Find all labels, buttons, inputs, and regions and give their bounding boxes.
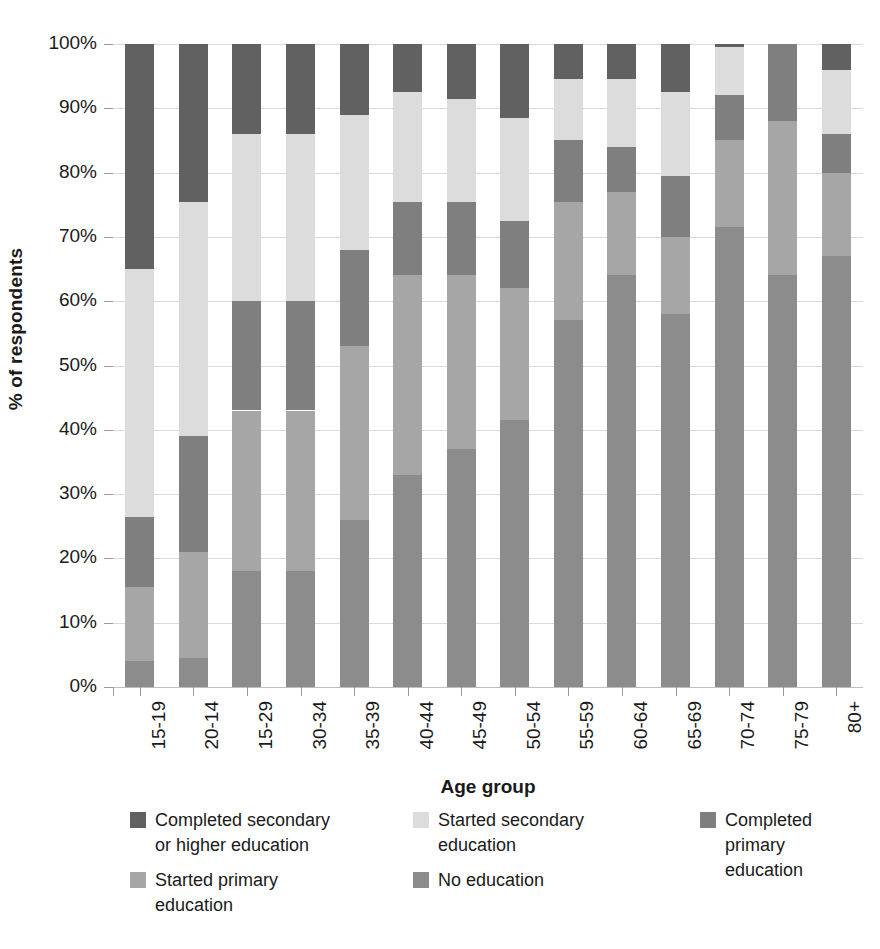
bar-segment[interactable] — [554, 202, 583, 321]
bar-segment[interactable] — [607, 147, 636, 192]
bar-segment[interactable] — [500, 288, 529, 420]
bar-segment[interactable] — [232, 134, 261, 301]
bar-column[interactable] — [607, 44, 636, 687]
bar-segment[interactable] — [179, 202, 208, 437]
bar-column[interactable] — [232, 44, 261, 687]
x-axis-tick-label: 45-49 — [469, 701, 491, 750]
bar-segment[interactable] — [500, 420, 529, 687]
bar-segment[interactable] — [822, 256, 851, 687]
bar-segment[interactable] — [232, 411, 261, 572]
x-axis-tick-label: 75-79 — [791, 701, 813, 750]
bar-stack — [715, 44, 744, 687]
legend-item[interactable]: Started secondaryeducation — [413, 808, 584, 858]
bar-column[interactable] — [179, 44, 208, 687]
bar-segment[interactable] — [715, 95, 744, 140]
bar-column[interactable] — [500, 44, 529, 687]
bar-segment[interactable] — [554, 320, 583, 687]
bar-segment[interactable] — [554, 44, 583, 79]
bar-segment[interactable] — [447, 44, 476, 99]
bar-segment[interactable] — [822, 44, 851, 70]
bar-column[interactable] — [447, 44, 476, 687]
bar-segment[interactable] — [661, 44, 690, 92]
bar-segment[interactable] — [232, 301, 261, 410]
bar-segment[interactable] — [393, 44, 422, 92]
stacked-bar-chart: % of respondents 0%10%20%30%40%50%60%70%… — [0, 0, 880, 949]
bar-segment[interactable] — [768, 121, 797, 275]
bar-segment[interactable] — [125, 269, 154, 517]
bar-segment[interactable] — [822, 173, 851, 257]
bar-segment[interactable] — [822, 70, 851, 134]
x-axis-tick-mark — [622, 687, 623, 696]
bar-segment[interactable] — [286, 44, 315, 134]
bar-segment[interactable] — [286, 571, 315, 687]
bar-segment[interactable] — [607, 44, 636, 79]
bar-segment[interactable] — [125, 44, 154, 269]
bar-column[interactable] — [768, 44, 797, 687]
bar-column[interactable] — [286, 44, 315, 687]
bar-segment[interactable] — [554, 140, 583, 201]
bar-segment[interactable] — [393, 92, 422, 201]
legend-item[interactable]: No education — [413, 868, 544, 893]
bar-segment[interactable] — [340, 44, 369, 115]
bar-segment[interactable] — [447, 449, 476, 687]
bar-segment[interactable] — [715, 140, 744, 227]
bar-segment[interactable] — [286, 411, 315, 572]
bar-segment[interactable] — [125, 517, 154, 588]
bar-segment[interactable] — [179, 658, 208, 687]
y-axis-tick-mark — [104, 173, 113, 174]
bar-segment[interactable] — [607, 79, 636, 147]
bar-segment[interactable] — [715, 44, 744, 47]
bar-segment[interactable] — [393, 475, 422, 687]
bar-segment[interactable] — [661, 237, 690, 314]
bar-column[interactable] — [715, 44, 744, 687]
y-axis-tick-label: 70% — [59, 225, 97, 247]
bar-segment[interactable] — [393, 202, 422, 276]
bar-stack — [393, 44, 422, 687]
bar-segment[interactable] — [447, 99, 476, 202]
bar-segment[interactable] — [179, 552, 208, 658]
y-axis-tick-label: 40% — [59, 418, 97, 440]
legend-label: No education — [438, 868, 544, 893]
bar-segment[interactable] — [768, 44, 797, 121]
bar-column[interactable] — [125, 44, 154, 687]
bar-segment[interactable] — [179, 436, 208, 552]
bar-segment[interactable] — [768, 275, 797, 687]
bar-segment[interactable] — [232, 44, 261, 134]
bar-segment[interactable] — [447, 202, 476, 276]
bar-segment[interactable] — [500, 221, 529, 289]
bar-segment[interactable] — [179, 44, 208, 202]
bar-column[interactable] — [661, 44, 690, 687]
bar-segment[interactable] — [661, 314, 690, 687]
bar-segment[interactable] — [340, 346, 369, 520]
bar-column[interactable] — [554, 44, 583, 687]
bar-segment[interactable] — [125, 661, 154, 687]
bar-stack — [500, 44, 529, 687]
legend-item[interactable]: Started primaryeducation — [130, 868, 278, 918]
legend-label-line2: education — [155, 893, 278, 918]
bar-segment[interactable] — [340, 250, 369, 346]
bar-segment[interactable] — [661, 176, 690, 237]
bar-segment[interactable] — [125, 587, 154, 661]
bar-segment[interactable] — [447, 275, 476, 449]
bar-segment[interactable] — [607, 275, 636, 687]
bar-segment[interactable] — [715, 47, 744, 95]
bar-column[interactable] — [393, 44, 422, 687]
bar-column[interactable] — [340, 44, 369, 687]
x-axis-tick-label: 20-14 — [201, 701, 223, 750]
bar-column[interactable] — [822, 44, 851, 687]
x-axis-tick-mark — [354, 687, 355, 696]
bar-segment[interactable] — [500, 118, 529, 221]
bar-segment[interactable] — [232, 571, 261, 687]
bar-segment[interactable] — [340, 115, 369, 250]
bar-segment[interactable] — [393, 275, 422, 474]
bar-segment[interactable] — [500, 44, 529, 118]
legend-item[interactable]: Completed secondaryor higher education — [130, 808, 330, 858]
bar-segment[interactable] — [286, 134, 315, 301]
bar-segment[interactable] — [607, 192, 636, 276]
bar-segment[interactable] — [661, 92, 690, 176]
bar-segment[interactable] — [822, 134, 851, 173]
bar-segment[interactable] — [715, 227, 744, 687]
bar-segment[interactable] — [340, 520, 369, 687]
bar-segment[interactable] — [286, 301, 315, 410]
bar-segment[interactable] — [554, 79, 583, 140]
